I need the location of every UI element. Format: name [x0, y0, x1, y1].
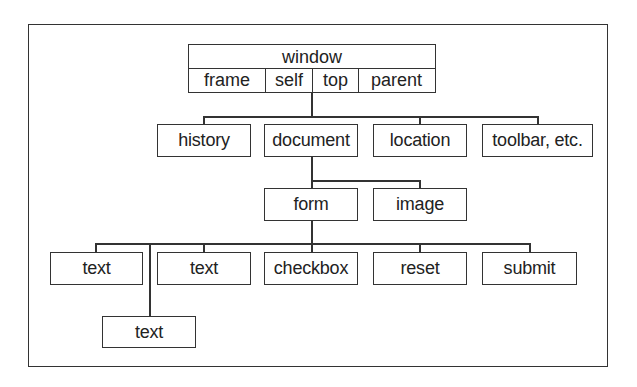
node-text-2: text [157, 252, 251, 285]
window-property-top: top [313, 69, 359, 92]
node-reset-label: reset [400, 258, 439, 279]
node-image-label: image [396, 194, 444, 215]
connector [203, 116, 538, 118]
node-window-label: window [282, 47, 342, 68]
connector [95, 243, 97, 252]
node-text-2-label: text [190, 258, 218, 279]
connector [311, 157, 313, 188]
node-history: history [157, 124, 251, 157]
node-toolbar-label: toolbar, etc. [492, 130, 582, 151]
connector [419, 180, 421, 188]
window-property-parent: parent [359, 69, 434, 92]
connector [311, 180, 420, 182]
window-properties-row: frame self top parent [188, 68, 436, 93]
connector [149, 243, 151, 316]
node-form: form [264, 188, 358, 221]
node-reset: reset [373, 252, 467, 285]
node-location-label: location [390, 130, 450, 151]
node-text-3-label: text [135, 322, 163, 343]
connector [203, 243, 205, 252]
connector [419, 116, 421, 124]
connector [311, 221, 313, 252]
node-document-label: document [272, 130, 349, 151]
node-history-label: history [178, 130, 230, 151]
node-document: document [264, 124, 358, 157]
node-submit-label: submit [504, 258, 556, 279]
node-window: window [188, 44, 436, 70]
connector [529, 243, 531, 252]
connector [311, 92, 313, 117]
node-toolbar: toolbar, etc. [482, 124, 593, 157]
node-image: image [373, 188, 467, 221]
node-text-1: text [50, 252, 143, 285]
window-property-frame: frame [189, 69, 266, 92]
connector [95, 243, 530, 245]
connector [419, 243, 421, 252]
window-property-self: self [266, 69, 313, 92]
node-location: location [373, 124, 467, 157]
connector [537, 116, 539, 124]
node-text-1-label: text [82, 258, 110, 279]
node-text-3: text [102, 316, 196, 348]
connector [203, 116, 205, 124]
node-form-label: form [293, 194, 328, 215]
node-checkbox-label: checkbox [274, 258, 348, 279]
node-checkbox: checkbox [264, 252, 358, 285]
node-submit: submit [482, 252, 577, 285]
